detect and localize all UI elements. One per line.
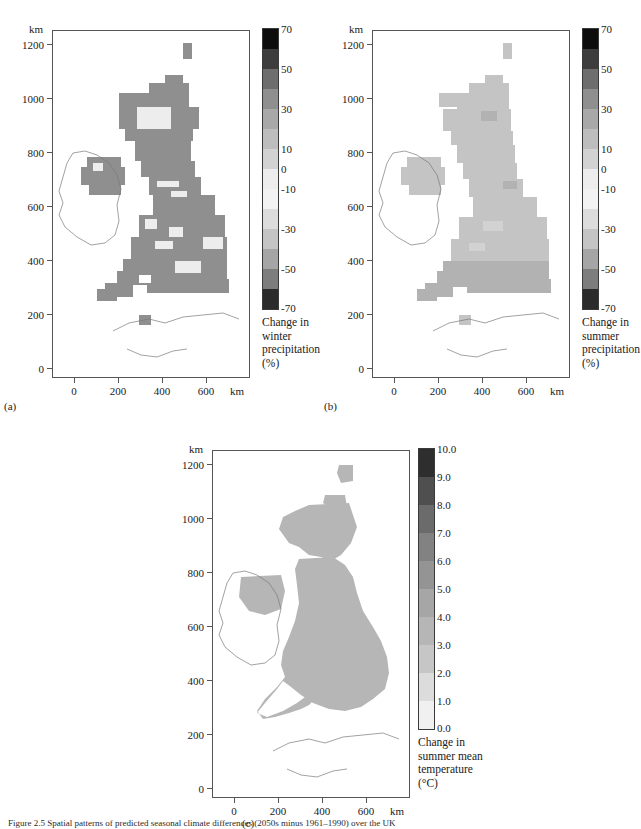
panel-a: km 1200 1000 800 600 400 200 0 (0, 0, 320, 420)
panel-b-y-tick: 0 (326, 364, 364, 375)
panel-a-colorbar-tick: -10 (281, 184, 296, 195)
panel-b-colorbar (582, 28, 599, 310)
panel-c-colorbar-tick: 6.0 (437, 556, 451, 567)
panel-a-map (53, 31, 249, 377)
panel-b-y-tick: 600 (326, 202, 364, 213)
panel-c-y-tick: 0 (166, 784, 204, 795)
panel-b-data-cells (401, 43, 551, 325)
panel-b-colorbar-tick: 10 (601, 144, 612, 155)
panel-a-label: (a) (4, 401, 16, 412)
panel-b-x-axis-unit: km (550, 386, 564, 397)
panel-b-x-tick: 0 (374, 386, 414, 397)
panel-b-y-tick: 400 (326, 256, 364, 267)
panel-a-colorbar-tick: 0 (281, 164, 287, 175)
panel-a-y-tick: 400 (6, 256, 44, 267)
panel-c-colorbar-tick: 9.0 (437, 472, 451, 483)
panel-b-map (373, 31, 569, 377)
panel-b-colorbar-tick: 70 (601, 24, 612, 35)
panel-b-label: (b) (324, 401, 337, 412)
panel-b-colorbar-caption: Change in summer precipitation (%) (582, 316, 641, 370)
panel-a-x-axis-unit: km (230, 386, 244, 397)
panel-a-y-tick: 1000 (6, 94, 44, 105)
panel-c-y-tick: 1200 (166, 460, 204, 471)
panel-a-colorbar-tick: 10 (281, 144, 292, 155)
panel-a-y-tick: 600 (6, 202, 44, 213)
panel-c-colorbar-tick: 10.0 (437, 444, 456, 455)
panel-c-colorbar-tick: 2.0 (437, 668, 451, 679)
panel-c-y-axis-unit: km (189, 444, 203, 455)
panel-b-y-axis-unit: km (349, 24, 363, 35)
panel-b-y-tick: 200 (326, 310, 364, 321)
panel-c-colorbar-caption: Change in summer mean temperature (°C) (418, 736, 518, 790)
panel-b-map-frame (372, 30, 570, 378)
panel-c-x-tick: 600 (346, 806, 386, 817)
panel-b-y-tick: 1000 (326, 94, 364, 105)
panel-a-colorbar-tick: 30 (281, 104, 292, 115)
panel-b-colorbar-tick: 0 (601, 164, 607, 175)
panel-a-y-axis-unit: km (29, 24, 43, 35)
panel-b-colorbar-tick: -50 (601, 264, 616, 275)
panel-c-y-tick: 1000 (166, 514, 204, 525)
panel-c-colorbar-tick: 1.0 (437, 696, 451, 707)
panel-a-y-tick: 0 (6, 364, 44, 375)
panel-b-colorbar-tick: -70 (601, 303, 616, 314)
panel-a-colorbar-tick: 70 (281, 24, 292, 35)
panel-b-x-tick: 600 (506, 386, 546, 397)
panel-c-colorbar-tick: 3.0 (437, 640, 451, 651)
panel-b-y-tick: 800 (326, 148, 364, 159)
panel-b-y-tick: 1200 (326, 40, 364, 51)
panel-a-y-tick: 200 (6, 310, 44, 321)
panel-c-y-tick: 400 (166, 676, 204, 687)
panel-c-x-tick: 400 (302, 806, 342, 817)
panel-b-x-tick: 200 (418, 386, 458, 397)
panel-c: km 1200 1000 800 600 400 200 0 (160, 420, 520, 820)
panel-c-colorbar-tick: 0.0 (437, 723, 451, 734)
figure-caption: Figure 2.5 Spatial patterns of predicted… (8, 818, 633, 829)
panel-a-y-tick: 800 (6, 148, 44, 159)
panel-c-colorbar-tick: 5.0 (437, 584, 451, 595)
panel-c-colorbar (418, 448, 435, 730)
panel-b-x-tick: 400 (462, 386, 502, 397)
panel-a-x-tick: 600 (186, 386, 226, 397)
panel-c-y-tick: 200 (166, 730, 204, 741)
panel-c-colorbar-tick: 7.0 (437, 528, 451, 539)
panel-a-data-cells (81, 43, 229, 325)
panel-c-colorbar-tick: 4.0 (437, 612, 451, 623)
panel-c-x-tick: 200 (258, 806, 298, 817)
panel-b-colorbar-tick: 30 (601, 104, 612, 115)
panel-a-colorbar-tick: -70 (281, 303, 296, 314)
panel-b-colorbar-tick: 50 (601, 64, 612, 75)
panel-c-map-frame (212, 450, 410, 798)
panel-a-map-frame (52, 30, 250, 378)
panel-b-colorbar-tick: -10 (601, 184, 616, 195)
panel-c-map (213, 451, 409, 797)
panel-a-colorbar-tick: 50 (281, 64, 292, 75)
panel-a-y-tick: 1200 (6, 40, 44, 51)
panel-b: km 1200 1000 800 600 400 200 0 (320, 0, 641, 420)
panel-a-colorbar-tick: -50 (281, 264, 296, 275)
panel-c-data-cells (239, 465, 389, 719)
panel-c-x-axis-unit: km (390, 806, 404, 817)
panel-a-colorbar (262, 28, 279, 310)
panel-a-x-tick: 200 (98, 386, 138, 397)
panel-c-y-tick: 600 (166, 622, 204, 633)
panel-a-colorbar-tick: -30 (281, 224, 296, 235)
panel-c-colorbar-tick: 8.0 (437, 500, 451, 511)
panel-a-x-tick: 0 (54, 386, 94, 397)
panel-c-y-tick: 800 (166, 568, 204, 579)
panel-a-x-tick: 400 (142, 386, 182, 397)
panel-c-x-tick: 0 (214, 806, 254, 817)
panel-b-colorbar-tick: -30 (601, 224, 616, 235)
